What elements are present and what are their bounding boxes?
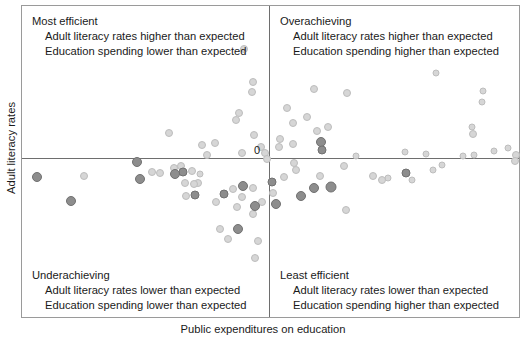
data-point: [313, 127, 321, 135]
quadrant-title: Underachieving: [32, 268, 247, 283]
quadrant-line-1: Adult literacy rates lower than expected: [280, 283, 499, 298]
data-point: [423, 151, 430, 158]
quadrant-line-2: Education spending lower than expected: [32, 298, 247, 313]
data-point: [238, 181, 248, 191]
quadrant-label-least-efficient: Least efficient Adult literacy rates low…: [280, 268, 499, 313]
data-point: [165, 129, 173, 137]
data-point: [429, 167, 436, 174]
quadrant-label-most-efficient: Most efficient Adult literacy rates high…: [32, 14, 247, 59]
data-point: [480, 87, 487, 94]
data-point: [197, 170, 204, 177]
data-point: [232, 116, 240, 124]
data-point: [289, 140, 297, 148]
data-point: [233, 203, 241, 211]
data-point: [340, 162, 348, 170]
quadrant-line-2: Education spending higher than expected: [280, 298, 499, 313]
data-point: [269, 189, 277, 197]
data-point: [459, 152, 466, 159]
x-axis-label: Public expenditures on education: [0, 323, 526, 335]
data-point: [190, 190, 199, 199]
quadrant-line-1: Adult literacy rates higher than expecte…: [280, 29, 499, 44]
quadrant-line-2: Education spending lower than expected: [32, 44, 247, 59]
quadrant-title: Overachieving: [280, 14, 499, 29]
data-point: [251, 254, 259, 262]
data-point: [198, 141, 206, 149]
data-point: [254, 237, 262, 245]
data-point: [275, 143, 283, 151]
data-point: [402, 148, 409, 155]
data-point: [504, 144, 511, 151]
data-point: [211, 139, 219, 147]
data-point: [203, 151, 211, 159]
data-point: [80, 172, 88, 180]
data-point: [296, 191, 306, 201]
data-point: [135, 174, 145, 184]
data-point: [233, 224, 243, 234]
data-point: [132, 157, 142, 167]
quadrant-label-overachieving: Overachieving Adult literacy rates highe…: [280, 14, 499, 59]
data-point: [156, 169, 164, 177]
data-point: [66, 196, 76, 206]
data-point: [271, 199, 281, 209]
data-point: [316, 172, 324, 180]
data-point: [250, 131, 258, 139]
data-point: [292, 166, 300, 174]
data-point: [342, 206, 350, 214]
data-point: [471, 152, 478, 159]
data-point: [309, 183, 319, 193]
data-point: [212, 198, 220, 206]
data-point: [219, 190, 228, 199]
quadrant-line-2: Education spending higher than expected: [280, 44, 499, 59]
data-point: [229, 185, 237, 193]
data-point: [148, 168, 156, 176]
quadrant-line-1: Adult literacy rates lower than expected: [32, 283, 247, 298]
data-point: [378, 176, 386, 184]
data-point: [250, 201, 260, 211]
data-point: [249, 78, 257, 86]
data-point: [409, 176, 416, 183]
data-point: [469, 130, 477, 138]
data-point: [249, 184, 257, 192]
data-point: [188, 167, 196, 175]
data-point: [248, 88, 256, 96]
data-point: [276, 135, 284, 143]
scatter-chart-figure: 0 Most efficient Adult literacy rates hi…: [0, 0, 526, 343]
data-point: [353, 152, 360, 159]
data-point: [179, 167, 188, 176]
plot-area: 0 Most efficient Adult literacy rates hi…: [21, 5, 520, 318]
data-point: [280, 173, 288, 181]
data-point: [310, 85, 318, 93]
quadrant-line-1: Adult literacy rates higher than expecte…: [32, 29, 247, 44]
data-point: [326, 182, 337, 193]
data-point: [181, 179, 189, 187]
data-point: [491, 147, 498, 154]
data-point: [238, 193, 246, 201]
quadrant-title: Least efficient: [280, 268, 499, 283]
data-point: [224, 235, 232, 243]
data-point: [369, 172, 377, 180]
data-point: [438, 162, 445, 169]
data-point: [324, 123, 332, 131]
data-point: [511, 157, 519, 165]
data-point: [263, 155, 271, 163]
data-point: [283, 104, 291, 112]
quadrant-title: Most efficient: [32, 14, 247, 29]
data-point: [238, 149, 246, 157]
data-point: [268, 178, 277, 187]
data-point: [216, 225, 224, 233]
origin-tick-label: 0: [254, 144, 260, 157]
y-axis-label: Adult literacy rates: [5, 88, 17, 208]
quadrant-label-underachieving: Underachieving Adult literacy rates lowe…: [32, 268, 247, 313]
data-point: [32, 172, 42, 182]
data-point: [479, 99, 486, 106]
data-point: [303, 113, 311, 121]
data-point: [318, 145, 327, 154]
data-point: [190, 180, 198, 188]
data-point: [182, 192, 190, 200]
data-point: [289, 119, 297, 127]
data-point: [343, 89, 351, 97]
data-point: [170, 169, 180, 179]
data-point: [432, 70, 439, 77]
